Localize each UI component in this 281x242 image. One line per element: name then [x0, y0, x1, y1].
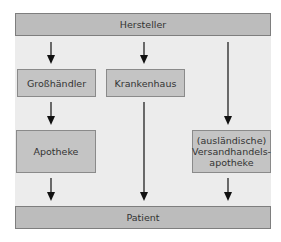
- arrow-hersteller-versand: [224, 42, 232, 125]
- arrow-versand-patient: [224, 178, 232, 201]
- arrow-apotheke-patient: [47, 178, 55, 201]
- arrow-krankenhaus-patient: [140, 102, 148, 201]
- arrow-grosshaendler-apotheke: [47, 102, 55, 125]
- arrow-hersteller-krankenhaus: [140, 42, 148, 64]
- arrows-layer: [0, 0, 281, 242]
- arrow-hersteller-grosshaendler: [47, 42, 55, 64]
